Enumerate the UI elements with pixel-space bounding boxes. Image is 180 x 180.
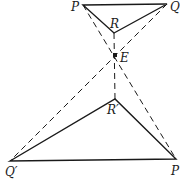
dashed-line-r-to-r-prime: [114, 33, 115, 99]
label-q-prime: Q′: [5, 165, 18, 179]
triangle-pqr: [83, 4, 167, 33]
enlargement-diagram: P Q R E R′ Q′ P: [0, 0, 180, 180]
dashed-line-q-to-q-prime: [10, 4, 167, 161]
label-p: P: [70, 0, 80, 14]
label-r: R: [109, 17, 119, 31]
triangle-p-prime-q-prime-r-prime: [10, 99, 176, 161]
dashed-line-p-to-p-prime: [83, 5, 176, 159]
label-e: E: [119, 51, 129, 65]
centre-point-e: [113, 53, 117, 57]
label-q: Q: [170, 0, 180, 14]
label-r-prime: R′: [106, 103, 119, 117]
label-p-prime: P: [170, 164, 180, 178]
